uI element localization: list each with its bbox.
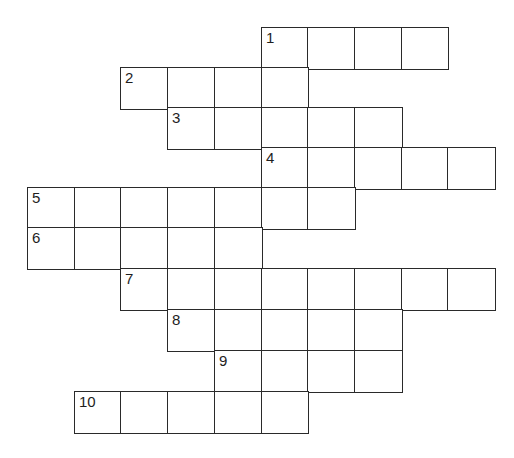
crossword-cell[interactable] xyxy=(120,227,169,270)
crossword-cell[interactable] xyxy=(167,268,216,311)
crossword-cell[interactable]: 6 xyxy=(27,227,76,270)
crossword-cell[interactable] xyxy=(74,227,122,270)
crossword-cell[interactable] xyxy=(167,227,216,270)
clue-number: 4 xyxy=(266,150,274,165)
crossword-cell[interactable] xyxy=(261,350,309,393)
clue-number: 10 xyxy=(79,394,96,409)
crossword-cell[interactable] xyxy=(401,147,449,190)
crossword-cell[interactable] xyxy=(307,107,356,150)
clue-number: 9 xyxy=(219,353,227,368)
crossword-cell[interactable] xyxy=(354,309,403,352)
clue-number: 2 xyxy=(125,70,133,85)
crossword-cell[interactable] xyxy=(307,147,356,190)
crossword-cell[interactable] xyxy=(307,309,356,352)
clue-number: 8 xyxy=(172,312,180,327)
crossword-cell[interactable] xyxy=(167,187,216,230)
crossword-cell[interactable] xyxy=(354,107,403,150)
crossword-cell[interactable] xyxy=(261,107,309,150)
crossword-cell[interactable]: 5 xyxy=(27,187,76,230)
crossword-grid: 12345678910 xyxy=(0,0,514,458)
crossword-cell[interactable]: 9 xyxy=(214,350,263,393)
crossword-cell[interactable] xyxy=(167,391,216,434)
crossword-cell[interactable] xyxy=(167,67,216,110)
crossword-cell[interactable] xyxy=(307,268,356,311)
crossword-cell[interactable] xyxy=(214,187,263,230)
crossword-cell[interactable] xyxy=(74,187,122,230)
crossword-cell[interactable] xyxy=(401,27,449,70)
crossword-cell[interactable]: 7 xyxy=(120,268,169,311)
crossword-cell[interactable] xyxy=(447,268,496,311)
crossword-cell[interactable] xyxy=(214,391,263,434)
crossword-cell[interactable]: 4 xyxy=(261,147,309,190)
crossword-cell[interactable] xyxy=(261,187,309,230)
crossword-cell[interactable]: 10 xyxy=(74,391,122,434)
crossword-cell[interactable] xyxy=(261,309,309,352)
crossword-cell[interactable] xyxy=(401,268,449,311)
crossword-cell[interactable] xyxy=(307,187,356,230)
crossword-cell[interactable] xyxy=(261,391,309,434)
clue-number: 7 xyxy=(125,271,133,286)
crossword-cell[interactable] xyxy=(261,268,309,311)
crossword-cell[interactable] xyxy=(354,350,403,393)
clue-number: 1 xyxy=(266,30,274,45)
crossword-cell[interactable]: 8 xyxy=(167,309,216,352)
crossword-cell[interactable] xyxy=(307,350,356,393)
crossword-cell[interactable] xyxy=(214,67,263,110)
crossword-cell[interactable] xyxy=(354,268,403,311)
crossword-cell[interactable]: 1 xyxy=(261,27,309,70)
crossword-cell[interactable] xyxy=(120,391,169,434)
crossword-cell[interactable] xyxy=(214,268,263,311)
clue-number: 3 xyxy=(172,110,180,125)
crossword-cell[interactable] xyxy=(214,227,263,270)
crossword-cell[interactable] xyxy=(120,187,169,230)
crossword-cell[interactable]: 3 xyxy=(167,107,216,150)
crossword-cell[interactable] xyxy=(307,27,356,70)
crossword-cell[interactable] xyxy=(447,147,496,190)
crossword-cell[interactable] xyxy=(354,147,403,190)
crossword-cell[interactable]: 2 xyxy=(120,67,169,110)
crossword-cell[interactable] xyxy=(214,107,263,150)
crossword-cell[interactable] xyxy=(354,27,403,70)
clue-number: 5 xyxy=(32,190,40,205)
crossword-cell[interactable] xyxy=(214,309,263,352)
crossword-cell[interactable] xyxy=(261,67,309,110)
clue-number: 6 xyxy=(32,230,40,245)
